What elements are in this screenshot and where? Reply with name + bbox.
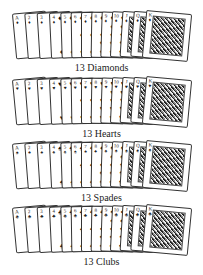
card-index: 9♠ [103, 144, 108, 154]
card-index: 7♥ [83, 80, 88, 90]
card-fan-clubs: A♣2♣3♣4♣♣♣5♣♣♣6♣♣♣♣7♣♣♣♣8♣♣♣♣♣9♣♣♣♣♣♣10♣… [14, 206, 194, 256]
card-index: 2♣ [26, 209, 32, 219]
card-index: 9♦ [103, 14, 108, 24]
suit-icon: ♥ [63, 85, 68, 90]
suit-icon: ♣ [93, 213, 98, 218]
card-index: A♦ [14, 15, 20, 25]
card-index: 2♦ [26, 15, 32, 25]
suit-icon: ♥ [15, 86, 20, 91]
card-index: 2♠ [26, 145, 32, 155]
card-index: 3♥ [39, 81, 45, 91]
card-fan-spades: A♠2♠3♠4♠♠♠5♠♠♠6♠♠♠♠7♠♠♠♠8♠♠♠♠♠9♠♠♠♠♠♠10♠… [14, 142, 194, 192]
suit-icon: ♦ [39, 20, 44, 25]
card-index: 7♣ [83, 208, 88, 218]
card-index: 8♠ [93, 144, 98, 154]
suit-icon: ♣ [114, 212, 119, 217]
suit-icon: ♠ [73, 149, 78, 154]
suit-icon: ♣ [15, 214, 20, 219]
suit-icon: ♥ [39, 86, 44, 91]
suit-icon: ♠ [63, 149, 68, 154]
suit-icon: ♠ [114, 148, 119, 153]
card-index: 5♠ [62, 144, 67, 154]
suit-icon: ♦ [83, 19, 88, 24]
card-index: 9♥ [103, 80, 108, 90]
court-figure-icon [149, 82, 185, 123]
row-label-hearts: 13 Hearts [0, 128, 203, 139]
card-index: 3♦ [39, 15, 45, 25]
suit-icon: ♠ [83, 149, 88, 154]
suit-icon: ♥ [114, 84, 119, 89]
suit-icon: ♣ [39, 214, 44, 219]
card-index: 5♥ [62, 80, 67, 90]
card-index: 4♥ [51, 80, 56, 90]
suit-icon: ♦ [103, 19, 108, 24]
suit-icon: ♥ [103, 85, 108, 90]
suit-icon: ♠ [93, 149, 98, 154]
row-label-spades: 13 Spades [0, 192, 203, 203]
card-k-of-hearts: K♥ [142, 76, 192, 128]
card-index: 10♥ [114, 79, 119, 89]
card-index: A♠ [14, 145, 20, 155]
card-index: 10♣ [114, 207, 119, 217]
card-index: 6♦ [73, 14, 78, 24]
card-k-of-clubs: K♣ [142, 204, 192, 256]
card-index: 3♣ [39, 209, 45, 219]
card-index: 6♠ [73, 144, 78, 154]
card-index: 5♦ [62, 14, 67, 24]
card-index: 7♠ [83, 144, 88, 154]
suit-icon: ♦ [15, 20, 20, 25]
card-index: 10♦ [114, 13, 119, 23]
card-index: 5♣ [62, 208, 67, 218]
suit-icon: ♦ [63, 19, 68, 24]
card-index: 8♣ [93, 208, 98, 218]
suit-icon: ♠ [15, 150, 20, 155]
suit-icon: ♣ [51, 213, 56, 218]
suit-icon: ♣ [63, 213, 68, 218]
suit-icon: ♠ [27, 150, 32, 155]
suit-icon: ♥ [83, 85, 88, 90]
suit-icon: ♠ [103, 149, 108, 154]
suit-icon: ♥ [93, 85, 98, 90]
card-index: 3♠ [39, 145, 45, 155]
row-label-diamonds: 13 Diamonds [0, 62, 203, 73]
court-figure-icon [149, 16, 185, 57]
card-index: 6♥ [73, 80, 78, 90]
court-figure-icon [149, 210, 185, 251]
row-label-clubs: 13 Clubs [0, 256, 203, 267]
suit-icon: ♣ [83, 213, 88, 218]
card-fan-hearts: A♥2♥3♥4♥♥♥5♥♥♥6♥♥♥♥7♥♥♥♥8♥♥♥♥♥9♥♥♥♥♥♥10♥… [14, 78, 194, 128]
suit-icon: ♣ [103, 213, 108, 218]
card-index: 7♦ [83, 14, 88, 24]
suit-icon: ♥ [73, 85, 78, 90]
card-index: 8♦ [93, 14, 98, 24]
card-index: 6♣ [73, 208, 78, 218]
card-index: A♥ [14, 81, 20, 91]
card-index: 10♠ [114, 143, 119, 153]
card-k-of-diamonds: K♦ [142, 10, 192, 62]
card-k-of-spades: K♠ [142, 140, 192, 192]
card-index: 8♥ [93, 80, 98, 90]
suit-icon: ♦ [51, 19, 56, 24]
card-index: 9♣ [103, 208, 108, 218]
card-index: 4♦ [51, 14, 56, 24]
suit-icon: ♥ [27, 86, 32, 91]
suit-icon: ♥ [51, 85, 56, 90]
card-index: 4♠ [51, 144, 56, 154]
court-figure-icon [149, 146, 185, 187]
card-index: A♣ [14, 209, 20, 219]
suit-icon: ♣ [73, 213, 78, 218]
suit-icon: ♦ [27, 20, 32, 25]
suit-icon: ♦ [114, 18, 119, 23]
card-fan-diamonds: A♦2♦3♦4♦♦♦5♦♦♦6♦♦♦♦7♦♦♦♦8♦♦♦♦♦9♦♦♦♦♦♦10♦… [14, 12, 194, 62]
suit-icon: ♠ [39, 150, 44, 155]
suit-icon: ♣ [27, 214, 32, 219]
suit-icon: ♦ [73, 19, 78, 24]
card-index: 4♣ [51, 208, 56, 218]
suit-icon: ♦ [93, 19, 98, 24]
card-index: 2♥ [26, 81, 32, 91]
suit-icon: ♠ [51, 149, 56, 154]
